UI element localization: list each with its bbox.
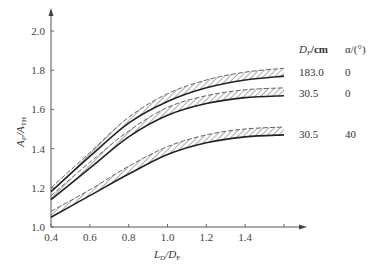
x-tick-label: 1.0 — [161, 231, 175, 243]
data-band — [51, 88, 284, 200]
band-hatch-area — [51, 88, 284, 200]
y-axis-label: AP/ATH — [14, 117, 28, 148]
x-axis-label: LD/DF — [153, 248, 180, 262]
legend-row-alpha: 40 — [345, 128, 357, 140]
legend-row-df: 30.5 — [299, 87, 319, 99]
x-tick-label: 0.4 — [44, 231, 58, 243]
y-tick-label: 2.0 — [31, 25, 45, 37]
x-axis-arrow-icon — [299, 225, 307, 230]
legend-row-df: 183.0 — [299, 66, 324, 78]
legend-header-df: DF/cm — [298, 43, 328, 57]
y-axis-arrow-icon — [49, 8, 54, 16]
band-upper-line — [51, 88, 284, 196]
legend-row-df: 30.5 — [299, 128, 319, 140]
chart-canvas: 1.01.21.41.61.82.0 0.40.60.81.01.21.4 AP… — [0, 0, 373, 271]
y-tick-label: 1.2 — [31, 182, 45, 194]
x-tick-label: 1.2 — [199, 231, 213, 243]
y-tick-label: 1.6 — [31, 103, 45, 115]
y-tick-label: 1.4 — [31, 143, 45, 155]
x-tick-label: 0.8 — [122, 231, 136, 243]
legend-row-alpha: 0 — [345, 66, 351, 78]
legend: DF/cm α/(°) 183.0 0 30.5 0 30.5 40 — [298, 43, 366, 140]
data-bands — [51, 68, 284, 217]
legend-row-alpha: 0 — [345, 87, 351, 99]
legend-header-alpha: α/(°) — [345, 43, 366, 56]
y-tick-label: 1.8 — [31, 64, 45, 76]
x-tick-label: 0.6 — [83, 231, 97, 243]
x-tick-label: 1.4 — [238, 231, 252, 243]
